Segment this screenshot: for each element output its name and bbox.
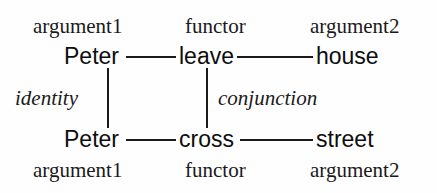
semantic-network-diagram: argument1 functor argument2 Peter leave … xyxy=(0,0,437,193)
node-bottom-argument2: street xyxy=(313,128,377,151)
bottom-label-argument2: argument2 xyxy=(310,160,399,181)
node-bottom-functor: cross xyxy=(176,128,237,151)
edge-identity-vertical xyxy=(107,68,109,134)
bottom-label-functor: functor xyxy=(185,160,246,181)
edge-conjunction-vertical xyxy=(206,68,208,134)
relation-label-identity: identity xyxy=(15,88,78,109)
edge-bottom-functor-argument2 xyxy=(240,139,318,141)
node-bottom-argument1: Peter xyxy=(61,128,122,151)
edge-top-argument1-functor xyxy=(126,56,182,58)
top-label-argument1: argument1 xyxy=(33,16,122,37)
top-label-functor: functor xyxy=(185,16,246,37)
node-top-functor: leave xyxy=(176,45,237,68)
node-top-argument2: house xyxy=(313,45,382,68)
edge-top-functor-argument2 xyxy=(236,56,318,58)
node-top-argument1: Peter xyxy=(61,45,122,68)
top-label-argument2: argument2 xyxy=(310,16,399,37)
bottom-label-argument1: argument1 xyxy=(33,160,122,181)
relation-label-conjunction: conjunction xyxy=(218,88,317,109)
edge-bottom-argument1-functor xyxy=(126,139,182,141)
